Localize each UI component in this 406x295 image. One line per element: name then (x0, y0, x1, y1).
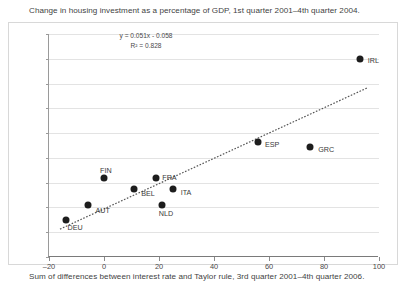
data-point-grc (307, 143, 314, 150)
data-point-esp (255, 138, 262, 145)
regression-annotation: y = 0.051x - 0.058 R² = 0.828 (98, 31, 194, 50)
data-label-irl: IRL (368, 56, 379, 65)
x-tick-mark (214, 257, 215, 261)
x-tick-label: 40 (194, 262, 234, 271)
x-tick-mark (269, 257, 270, 261)
data-point-fra (153, 174, 160, 181)
data-point-aut (84, 201, 91, 208)
data-point-bel (131, 185, 138, 192)
data-label-ita: ITA (181, 188, 192, 197)
data-point-fin (101, 174, 108, 181)
data-label-aut: AUT (96, 206, 110, 215)
x-tick-label: 20 (139, 262, 179, 271)
x-tick-label: –20 (29, 262, 69, 271)
x-tick-mark (104, 257, 105, 261)
data-label-esp: ESP (265, 140, 279, 149)
x-tick-mark (324, 257, 325, 261)
data-label-fin: FIN (100, 166, 112, 175)
data-label-bel: BEL (141, 189, 155, 198)
regression-equation: y = 0.051x - 0.058 (98, 31, 194, 41)
plot-area: 76543210-1-2 –20020406080100 DEUAUTFINBE… (48, 34, 378, 257)
data-point-nld (158, 201, 165, 208)
data-label-fra: FRA (162, 173, 176, 182)
data-point-ita (169, 185, 176, 192)
x-tick-label: 0 (84, 262, 124, 271)
chart-figure: Change in housing investment as a percen… (0, 0, 406, 295)
data-label-nld: NLD (159, 209, 173, 218)
x-tick-label: 80 (304, 262, 344, 271)
x-tick-mark (379, 257, 380, 261)
chart-title: Change in housing investment as a percen… (29, 5, 401, 16)
x-tick-label: 100 (359, 262, 399, 271)
data-label-grc: GRC (318, 145, 334, 154)
x-tick-label: 60 (249, 262, 289, 271)
x-tick-mark (159, 257, 160, 261)
data-point-irl (356, 55, 363, 62)
data-label-deu: DEU (68, 223, 83, 232)
regression-r-squared: R² = 0.828 (98, 41, 194, 51)
x-axis-caption: Sum of differences between interest rate… (29, 272, 401, 281)
x-tick-mark (49, 257, 50, 261)
